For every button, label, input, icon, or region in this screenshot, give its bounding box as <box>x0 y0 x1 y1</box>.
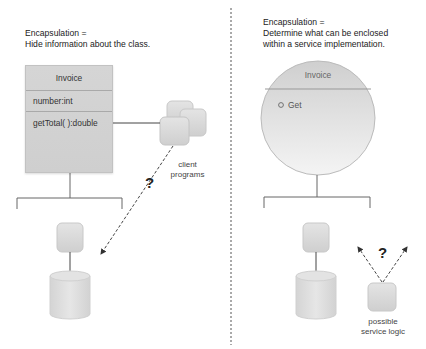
left-caption-line2: Hide information about the class. <box>25 39 150 50</box>
right-question-mark: ? <box>378 244 387 261</box>
left-question-mark: ? <box>145 174 154 191</box>
left-hierarchy-lines <box>17 173 122 209</box>
service-operation: Get <box>288 100 302 110</box>
class-name: Invoice <box>26 73 112 83</box>
right-caption: Encapsulation = Determine what can be en… <box>263 17 388 50</box>
right-hierarchy-lines <box>264 175 370 208</box>
class-method: getTotal( ):double <box>33 118 112 128</box>
class-box: Invoice number:int getTotal( ):double <box>25 65 113 173</box>
service-logic-label: possible service logic <box>352 317 414 337</box>
right-caption-line2: Determine what can be enclosed <box>263 28 388 39</box>
client-label-line1: client <box>165 160 210 170</box>
logic-label-line2: service logic <box>352 327 414 337</box>
class-divider-1 <box>26 90 112 91</box>
right-caption-line1: Encapsulation = <box>263 17 388 28</box>
left-component-icon <box>57 223 83 252</box>
client-label-line2: programs <box>165 170 210 180</box>
right-database-icon <box>296 271 336 319</box>
right-component-icon <box>303 223 329 252</box>
left-caption-line1: Encapsulation = <box>25 28 150 39</box>
service-name: Invoice <box>290 70 346 80</box>
logic-label-line1: possible <box>352 317 414 327</box>
service-logic-icon <box>368 283 396 311</box>
diagram-graphics <box>0 0 426 349</box>
left-database-icon <box>50 271 90 319</box>
left-caption: Encapsulation = Hide information about t… <box>25 28 150 50</box>
right-caption-line3: within a service implementation. <box>263 39 388 50</box>
class-divider-2 <box>26 111 112 112</box>
class-attribute: number:int <box>33 96 112 106</box>
client-programs-label: client programs <box>165 160 210 180</box>
client-programs-icon <box>160 101 206 145</box>
